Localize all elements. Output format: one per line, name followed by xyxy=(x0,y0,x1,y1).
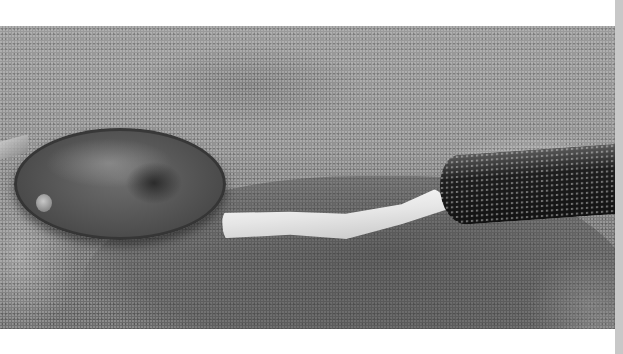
shell-edge xyxy=(0,134,28,160)
vertical-scrollbar[interactable] xyxy=(615,0,623,354)
photo xyxy=(0,26,615,329)
clam-shell xyxy=(14,128,226,240)
shell-spot xyxy=(36,194,52,212)
sand-tube xyxy=(440,144,615,226)
